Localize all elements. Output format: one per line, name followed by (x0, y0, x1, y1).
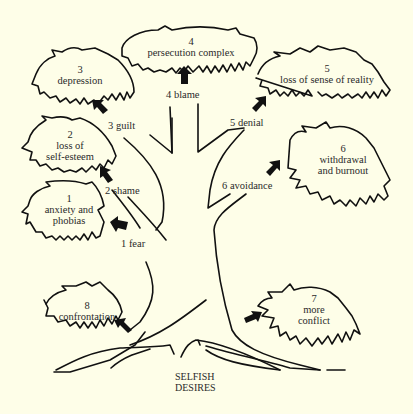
cloud-7-more-conflict: 7 more conflict (288, 293, 340, 326)
cloud-8-label: confrontation (52, 311, 122, 322)
cloud-6-label: withdrawal and burnout (306, 154, 380, 176)
cloud-7-label: more conflict (288, 304, 340, 326)
arrow-to-cloud-3 (92, 100, 108, 114)
cloud-2-loss-of-self-esteem: 2 loss of self-esteem (34, 129, 106, 162)
arrow-to-cloud-2 (100, 166, 113, 183)
root-label-selfish-desires: SELFISH DESIRES (175, 371, 216, 393)
cloud-1-anxiety-and-phobias: 1 anxiety and phobias (34, 193, 104, 226)
cloud-6-number: 6 (306, 143, 380, 154)
cloud-5-number: 5 (272, 63, 382, 74)
arrow-to-cloud-5 (252, 96, 266, 112)
cloud-1-label: anxiety and phobias (34, 204, 104, 226)
branch-label-guilt: 3 guilt (108, 120, 135, 131)
cloud-5-loss-of-sense-of-reality: 5 loss of sense of reality (272, 63, 382, 85)
arrow-to-cloud-1 (110, 216, 128, 232)
cloud-1-number: 1 (34, 193, 104, 204)
cloud-5-label: loss of sense of reality (272, 74, 382, 85)
cloud-3-number: 3 (46, 64, 114, 75)
cloud-2-number: 2 (34, 129, 106, 140)
cloud-6-withdrawal-and-burnout: 6 withdrawal and burnout (306, 143, 380, 176)
cloud-4-number: 4 (136, 36, 246, 47)
branch-label-avoidance: 6 avoidance (222, 180, 272, 191)
cloud-4-persecution-complex: 4 persecution complex (136, 36, 246, 58)
root-label-line-1: SELFISH (175, 371, 216, 382)
cloud-8-confrontation: 8 confrontation (52, 300, 122, 322)
cloud-8-number: 8 (52, 300, 122, 311)
cloud-2-label: loss of self-esteem (34, 140, 106, 162)
arrow-to-cloud-6 (266, 160, 280, 176)
root-label-line-2: DESIRES (175, 382, 216, 393)
branch-label-denial: 5 denial (230, 117, 264, 128)
cloud-7-number: 7 (288, 293, 340, 304)
arrow-to-cloud-7 (244, 311, 262, 323)
cloud-3-depression: 3 depression (46, 64, 114, 86)
branch-label-blame: 4 blame (166, 89, 200, 100)
cloud-4-label: persecution complex (136, 47, 246, 58)
selfish-desires-tree-diagram: 1 anxiety and phobias 2 loss of self-est… (0, 0, 413, 414)
branch-label-shame: 2 shame (105, 185, 140, 196)
cloud-3-label: depression (46, 75, 114, 86)
branch-label-fear: 1 fear (121, 238, 145, 249)
